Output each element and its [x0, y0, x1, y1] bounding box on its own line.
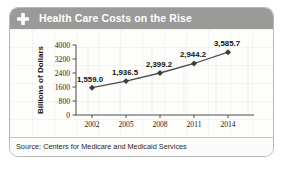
y-tick-label-0: 0	[66, 111, 70, 120]
page-title: Health Care Costs on the Rise	[39, 13, 192, 24]
card-footer: Source: Centers for Medicare and Medicai…	[10, 137, 273, 156]
chart-gridlines	[88, 45, 248, 115]
y-tick-label-3200: 3200	[55, 55, 70, 64]
chart-plot-area: Billions of Dollars 4000 3200 2400 1600 …	[10, 29, 273, 137]
data-label-2008: 2,399.2	[146, 60, 173, 69]
data-label-2002: 1,559.0	[77, 75, 104, 84]
y-tick-label-1600: 1600	[55, 83, 70, 92]
y-tick-label-800: 800	[59, 97, 71, 106]
y-tick-label-2400: 2400	[55, 69, 70, 78]
x-tick-label-2011: 2011	[187, 120, 202, 129]
data-label-2011: 2,944.2	[180, 50, 207, 59]
y-tick-label-4000: 4000	[55, 41, 70, 50]
card-header: Health Care Costs on the Rise	[10, 8, 273, 29]
medical-cross-icon	[13, 8, 33, 29]
data-label-2005: 1,936.5	[112, 68, 139, 77]
y-axis-ticks	[73, 45, 77, 115]
data-label-2014: 3,585.7	[214, 39, 240, 48]
x-tick-label-2005: 2005	[118, 120, 133, 129]
chart-card: Health Care Costs on the Rise	[9, 7, 274, 157]
x-tick-label-2014: 2014	[220, 120, 235, 129]
source-attribution: Source: Centers for Medicare and Medicai…	[16, 143, 187, 150]
x-tick-label-2002: 2002	[84, 120, 99, 129]
x-tick-label-2008: 2008	[152, 120, 167, 129]
y-axis-title: Billions of Dollars	[36, 45, 45, 114]
line-chart: Billions of Dollars 4000 3200 2400 1600 …	[10, 29, 274, 137]
